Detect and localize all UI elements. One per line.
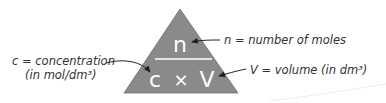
symbol-v: V xyxy=(199,67,214,92)
symbol-n: n xyxy=(173,32,187,57)
label-n: n = number of moles xyxy=(224,33,346,47)
symbol-times: × xyxy=(173,69,188,90)
label-c-line1: c = concentration xyxy=(12,54,115,68)
symbol-c: c xyxy=(149,67,161,92)
diagram-canvas: n c × V n = number of moles c = concentr… xyxy=(0,0,386,103)
decorative-swoosh xyxy=(270,84,386,101)
label-c-line2: (in mol/dm³) xyxy=(25,68,97,82)
formula-triangle-diagram: n c × V n = number of moles c = concentr… xyxy=(0,0,386,103)
label-v: V = volume (in dm³) xyxy=(250,63,367,77)
